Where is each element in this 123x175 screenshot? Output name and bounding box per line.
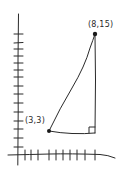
x-axis: [8, 154, 115, 158]
point-b-label: (8,15): [88, 21, 113, 29]
y-axis: [18, 14, 19, 165]
hypotenuse: [49, 34, 95, 131]
point-a-dot: [47, 129, 51, 133]
horizontal-leg: [49, 131, 95, 134]
right-angle-marker: [89, 127, 95, 133]
point-a-label: (3,3): [25, 117, 45, 125]
vertical-leg: [95, 34, 96, 133]
point-b-dot: [93, 32, 97, 36]
x-axis-ticks: [25, 150, 95, 160]
